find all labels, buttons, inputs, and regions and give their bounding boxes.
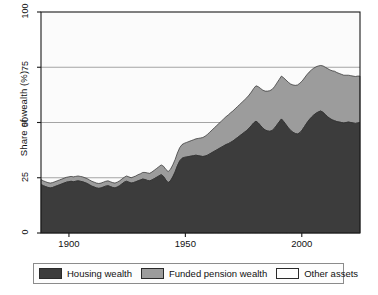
y-axis-tick-label-0: 0 (20, 221, 30, 243)
legend-item-other-assets[interactable]: Other assets (276, 268, 358, 279)
y-axis-tick-label-100: 100 (20, 0, 30, 22)
legend-swatch-icon (276, 268, 299, 279)
legend-swatch-icon (141, 268, 164, 279)
chart-legend: Housing wealthFunded pension wealthOther… (33, 263, 344, 284)
x-axis-tick-label-2000: 2000 (282, 238, 322, 249)
y-axis-tick-label-75: 75 (20, 55, 30, 77)
legend-item-funded-pension-wealth[interactable]: Funded pension wealth (141, 268, 267, 279)
chart-plot-area (0, 0, 378, 295)
legend-item-label: Funded pension wealth (169, 268, 267, 279)
y-axis-tick-label-50: 50 (20, 111, 30, 133)
legend-item-label: Housing wealth (67, 268, 132, 279)
chart-figure: Share of wealth (%) 0255075100 190019502… (0, 0, 378, 295)
legend-item-housing-wealth[interactable]: Housing wealth (39, 268, 132, 279)
y-axis-tick-label-25: 25 (20, 166, 30, 188)
x-axis-tick-label-1900: 1900 (49, 238, 89, 249)
x-axis-tick-label-1950: 1950 (165, 238, 205, 249)
legend-item-label: Other assets (304, 268, 358, 279)
legend-swatch-icon (39, 268, 62, 279)
